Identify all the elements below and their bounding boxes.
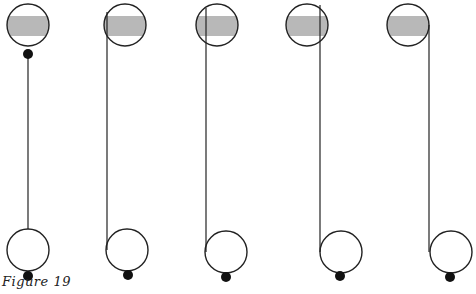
figure-3 [196, 4, 247, 282]
figure-5 [387, 4, 472, 282]
bottom-circle [430, 231, 472, 273]
shaded-band [7, 16, 49, 36]
weight-ball-bottom [335, 271, 345, 281]
bottom-circle [7, 229, 49, 271]
shaded-band [196, 16, 238, 36]
figure-diagram [0, 0, 476, 294]
shaded-band [387, 16, 429, 36]
shaded-band [286, 16, 328, 36]
figure-2 [104, 4, 148, 280]
weight-ball-top [23, 49, 33, 59]
bottom-circle [205, 231, 247, 273]
bottom-circle [106, 229, 148, 271]
weight-ball-bottom [445, 272, 455, 282]
weight-ball-bottom [123, 270, 133, 280]
figure-caption: Figure 19 [2, 274, 71, 289]
figure-1 [7, 4, 49, 281]
figure-4 [286, 4, 362, 281]
weight-ball-bottom [221, 272, 231, 282]
bottom-circle [320, 231, 362, 273]
shaded-band [104, 16, 146, 36]
